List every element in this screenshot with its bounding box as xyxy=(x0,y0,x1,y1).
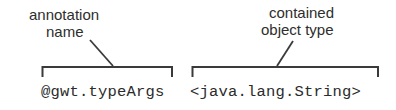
left-code-text: @gwt.typeArgs xyxy=(41,83,165,101)
left-leader-line xyxy=(90,40,113,66)
right-code-text: <java.lang.String> xyxy=(190,83,361,101)
right-bracket xyxy=(193,67,379,77)
annotation-diagram: annotation name contained object type @g… xyxy=(0,0,396,110)
left-bracket xyxy=(43,67,173,77)
right-leader-line xyxy=(277,41,293,66)
